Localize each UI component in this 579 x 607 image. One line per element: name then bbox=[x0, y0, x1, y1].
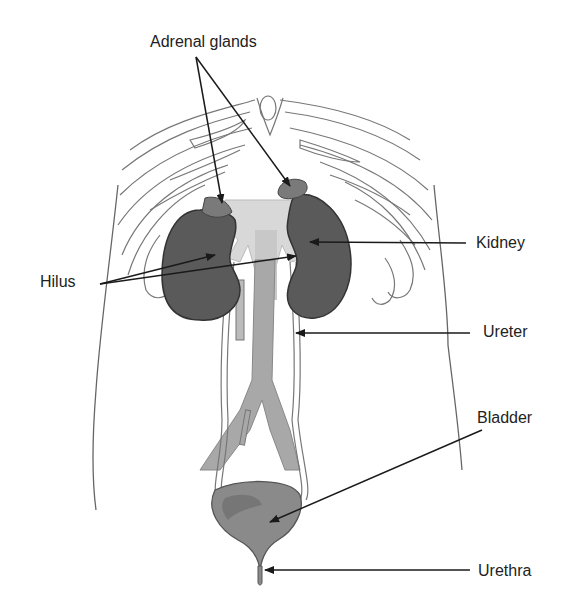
label-hilus: Hilus bbox=[40, 274, 76, 290]
arrow-bladder bbox=[270, 430, 482, 522]
label-adrenal-glands: Adrenal glands bbox=[150, 34, 257, 50]
label-kidney: Kidney bbox=[476, 235, 525, 251]
arrow-adrenal-right bbox=[196, 57, 290, 186]
arrow-kidney bbox=[310, 242, 466, 243]
anatomy-illustration bbox=[0, 0, 579, 607]
label-ureter: Ureter bbox=[483, 324, 527, 340]
label-bladder: Bladder bbox=[477, 410, 532, 426]
urinary-system-diagram: Adrenal glands Kidney Hilus Ureter Bladd… bbox=[0, 0, 579, 607]
label-urethra: Urethra bbox=[478, 563, 531, 579]
arrow-adrenal-left bbox=[196, 57, 222, 203]
urethra bbox=[258, 566, 262, 585]
sternum bbox=[257, 96, 283, 135]
